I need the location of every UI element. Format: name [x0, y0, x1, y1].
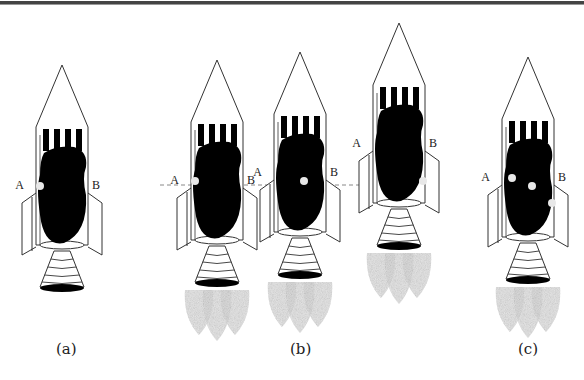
- marker-dot: [548, 199, 556, 207]
- rocket-diagram: ABABABABAB: [0, 0, 584, 380]
- point-label-a: A: [170, 173, 179, 187]
- fuel-rod-icon: [509, 121, 515, 143]
- left-fin: [22, 193, 36, 255]
- left-fin: [260, 180, 274, 242]
- right-fin: [243, 188, 257, 250]
- marker-dot: [36, 182, 44, 190]
- right-fin: [554, 185, 568, 247]
- point-label-b: B: [330, 165, 338, 179]
- marker-dot: [191, 177, 199, 185]
- caption-b: (b): [290, 340, 311, 358]
- point-label-b: B: [558, 170, 566, 184]
- fuel-rod-icon: [413, 87, 419, 109]
- nozzle: [377, 209, 421, 250]
- marker-dot: [508, 174, 516, 182]
- left-fin: [488, 185, 502, 247]
- payload-mass: [38, 147, 86, 244]
- caption-c: (c): [518, 340, 538, 358]
- payload-mass: [276, 134, 324, 231]
- fuel-rod-icon: [76, 129, 82, 151]
- fuel-rod-icon: [281, 116, 287, 138]
- exhaust-plume: [268, 282, 332, 333]
- marker-dot: [419, 177, 427, 185]
- point-label-b: B: [92, 178, 100, 192]
- payload-mass: [504, 139, 552, 236]
- point-label-b: B: [429, 136, 437, 150]
- caption-a: (a): [56, 340, 77, 358]
- right-fin: [425, 151, 439, 213]
- point-label-a: A: [253, 165, 262, 179]
- exhaust-plume: [367, 253, 431, 304]
- payload-mass: [193, 142, 241, 239]
- nozzle: [195, 246, 239, 287]
- rocket-b1: AB: [170, 60, 257, 341]
- fuel-rod-icon: [380, 87, 386, 109]
- right-fin: [88, 193, 102, 255]
- fuel-rod-icon: [542, 121, 548, 143]
- marker-dot: [528, 182, 536, 190]
- right-fin: [326, 180, 340, 242]
- nozzle: [40, 251, 84, 292]
- rocket-c: AB: [481, 57, 568, 338]
- nozzle: [278, 238, 322, 279]
- point-label-a: A: [352, 136, 361, 150]
- fuel-rod-icon: [198, 124, 204, 146]
- point-label-a: A: [481, 170, 490, 184]
- rocket-b2: AB: [253, 52, 340, 333]
- exhaust-plume: [496, 287, 560, 338]
- payload-mass: [375, 105, 423, 202]
- marker-dot: [300, 177, 308, 185]
- rocket-b3: AB: [352, 23, 439, 304]
- rocket-a: AB: [15, 65, 102, 292]
- fuel-rod-icon: [314, 116, 320, 138]
- left-fin: [177, 188, 191, 250]
- nozzle: [506, 243, 550, 284]
- exhaust-plume: [185, 290, 249, 341]
- fuel-rod-icon: [43, 129, 49, 151]
- left-fin: [359, 151, 373, 213]
- point-label-a: A: [15, 178, 24, 192]
- fuel-rod-icon: [231, 124, 237, 146]
